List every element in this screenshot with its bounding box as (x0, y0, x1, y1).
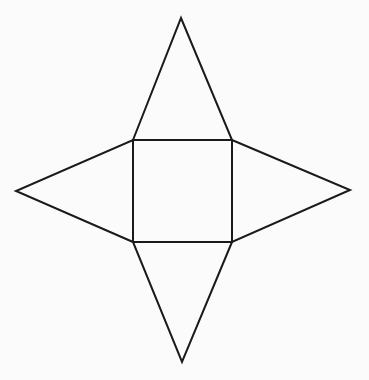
background (0, 0, 369, 380)
pyramid-net-diagram (0, 0, 369, 380)
